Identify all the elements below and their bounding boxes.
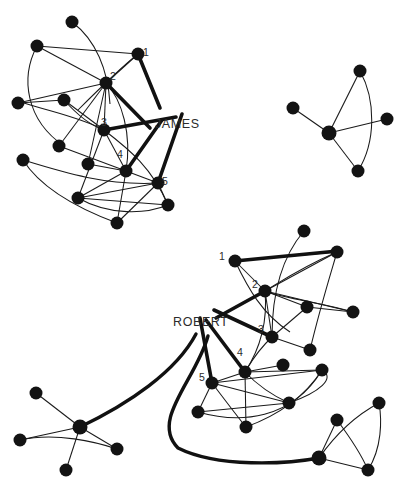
graph-node[interactable]: [381, 113, 394, 126]
name-label-robert: ROBERT: [173, 315, 228, 329]
graph-node[interactable]: [373, 397, 386, 410]
node-rank-label: 5: [162, 175, 168, 187]
graph-node[interactable]: [240, 421, 253, 434]
graph-node[interactable]: [283, 397, 296, 410]
node-rank-label: 3: [101, 116, 107, 128]
graph-node[interactable]: [316, 364, 329, 377]
graph-node[interactable]: [120, 165, 133, 178]
node-rank-label: 1: [143, 46, 149, 58]
node-rank-label: 3: [258, 323, 264, 335]
node-rank-label: 5: [199, 371, 205, 383]
node-rank-label: 1: [219, 250, 225, 262]
graph-node[interactable]: [312, 451, 327, 466]
graph-node[interactable]: [30, 387, 43, 400]
graph-node[interactable]: [331, 414, 344, 427]
node-rank-label: 4: [237, 346, 243, 358]
graph-node[interactable]: [239, 366, 252, 379]
graph-node[interactable]: [12, 97, 25, 110]
graph-node[interactable]: [66, 16, 79, 29]
graph-node[interactable]: [287, 102, 300, 115]
graph-node[interactable]: [266, 331, 279, 344]
node-rank-label: 4: [117, 148, 123, 160]
graph-node[interactable]: [73, 420, 88, 435]
graph-node[interactable]: [82, 158, 95, 171]
graph-node[interactable]: [354, 65, 367, 78]
graph-node[interactable]: [259, 285, 272, 298]
graph-node[interactable]: [301, 301, 314, 314]
graph-node[interactable]: [60, 464, 73, 477]
graph-node[interactable]: [304, 344, 317, 357]
graph-node[interactable]: [347, 306, 360, 319]
graph-node[interactable]: [206, 377, 219, 390]
graph-node[interactable]: [192, 406, 205, 419]
graph-node[interactable]: [53, 140, 66, 153]
name-label-james: JAMES: [155, 117, 200, 131]
graph-node[interactable]: [17, 154, 30, 167]
graph-node[interactable]: [277, 359, 290, 372]
graph-node[interactable]: [352, 165, 365, 178]
graph-node[interactable]: [111, 443, 124, 456]
network-graph: 1234512345 JAMESROBERT: [0, 0, 398, 487]
graph-node[interactable]: [72, 192, 85, 205]
node-rank-label: 2: [252, 278, 258, 290]
graph-node[interactable]: [162, 199, 175, 212]
network-diagram-canvas: 1234512345 JAMESROBERT: [0, 0, 398, 487]
graph-node[interactable]: [298, 225, 311, 238]
node-rank-label: 2: [110, 70, 116, 82]
graph-node[interactable]: [14, 434, 27, 447]
graph-node[interactable]: [331, 246, 344, 259]
graph-node[interactable]: [322, 126, 337, 141]
graph-node[interactable]: [362, 464, 375, 477]
graph-node[interactable]: [31, 40, 44, 53]
graph-node[interactable]: [229, 255, 242, 268]
graph-node[interactable]: [111, 217, 124, 230]
graph-node[interactable]: [58, 94, 71, 107]
